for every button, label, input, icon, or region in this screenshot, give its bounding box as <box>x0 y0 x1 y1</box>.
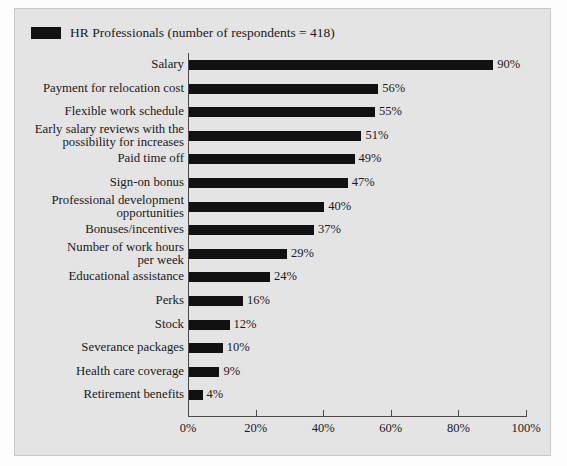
bar <box>189 249 287 259</box>
bar-row: Perks16% <box>188 289 526 313</box>
bar-row: Paid time off49% <box>188 147 526 171</box>
chart-panel: HR Professionals (number of respondents … <box>14 8 551 456</box>
bar <box>189 390 203 400</box>
bar <box>189 343 223 353</box>
bar-row: Severance packages10% <box>188 336 526 360</box>
bar-row: Stock12% <box>188 313 526 337</box>
bar <box>189 367 219 377</box>
category-label: Bonuses/incentives <box>24 223 184 237</box>
category-label-line: possibility for increases <box>24 136 184 150</box>
bar-row: Flexible work schedule55% <box>188 100 526 124</box>
bar-value-label: 49% <box>359 151 382 166</box>
bar-value-label: 24% <box>274 269 297 284</box>
x-axis-tick-label: 100% <box>511 421 540 436</box>
x-axis-tick <box>323 410 324 416</box>
category-label: Professional developmentopportunities <box>24 194 184 221</box>
bar <box>189 84 378 94</box>
category-label: Sign-on bonus <box>24 176 184 190</box>
category-label: Health care coverage <box>24 365 184 379</box>
x-axis-tick <box>391 410 392 416</box>
bar-row: Salary90% <box>188 53 526 77</box>
x-axis-tick-label: 80% <box>447 421 470 436</box>
x-axis-tick-label: 20% <box>244 421 267 436</box>
bar-row: Bonuses/incentives37% <box>188 218 526 242</box>
bar-row: Retirement benefits4% <box>188 383 526 407</box>
bar-row: Sign-on bonus47% <box>188 171 526 195</box>
category-label: Paid time off <box>24 152 184 166</box>
legend-label: HR Professionals (number of respondents … <box>70 26 335 40</box>
bar <box>189 320 230 330</box>
bar <box>189 225 314 235</box>
category-label: Number of work hoursper week <box>24 241 184 268</box>
bar <box>189 202 324 212</box>
bar-value-label: 12% <box>234 317 257 332</box>
x-axis-line <box>188 416 527 417</box>
category-label-line: Professional development <box>24 194 184 208</box>
bar <box>189 60 493 70</box>
x-axis-tick-label: 40% <box>312 421 335 436</box>
category-label: Payment for relocation cost <box>24 82 184 96</box>
category-label: Salary <box>24 58 184 72</box>
bar <box>189 296 243 306</box>
bar <box>189 178 348 188</box>
chart-legend: HR Professionals (number of respondents … <box>31 26 335 40</box>
bar-value-label: 16% <box>247 293 270 308</box>
bar-value-label: 40% <box>328 199 351 214</box>
bar <box>189 107 375 117</box>
bar-row: Health care coverage9% <box>188 360 526 384</box>
category-label: Flexible work schedule <box>24 105 184 119</box>
bar-value-label: 51% <box>365 128 388 143</box>
x-axis-tick <box>188 410 189 416</box>
bar <box>189 131 361 141</box>
category-label: Educational assistance <box>24 270 184 284</box>
bar-value-label: 10% <box>227 340 250 355</box>
category-label: Retirement benefits <box>24 388 184 402</box>
bar-value-label: 47% <box>352 175 375 190</box>
bar-row: Early salary reviews with thepossibility… <box>188 124 526 148</box>
category-label-line: Early salary reviews with the <box>24 123 184 137</box>
plot-area: 0%20%40%60%80%100% Salary90%Payment for … <box>188 53 526 416</box>
bar-row: Payment for relocation cost56% <box>188 77 526 101</box>
bar-row: Professional developmentopportunities40% <box>188 195 526 219</box>
bar <box>189 154 355 164</box>
bar-value-label: 56% <box>382 81 405 96</box>
category-label: Perks <box>24 294 184 308</box>
x-axis-tick <box>256 410 257 416</box>
category-label: Early salary reviews with thepossibility… <box>24 123 184 150</box>
legend-swatch-icon <box>31 27 61 39</box>
x-axis-tick <box>458 410 459 416</box>
bar-row: Number of work hoursper week29% <box>188 242 526 266</box>
x-axis-tick-label: 60% <box>379 421 402 436</box>
bar-value-label: 90% <box>497 57 520 72</box>
bar-value-label: 4% <box>207 387 224 402</box>
x-axis-tick <box>526 410 527 416</box>
category-label-line: Number of work hours <box>24 241 184 255</box>
bar <box>189 272 270 282</box>
bar-value-label: 29% <box>291 246 314 261</box>
bar-row: Educational assistance24% <box>188 265 526 289</box>
bar-value-label: 9% <box>223 364 240 379</box>
category-label: Severance packages <box>24 341 184 355</box>
x-axis-tick-label: 0% <box>180 421 197 436</box>
bar-value-label: 55% <box>379 104 402 119</box>
category-label: Stock <box>24 318 184 332</box>
category-label-line: per week <box>24 254 184 268</box>
bar-value-label: 37% <box>318 222 341 237</box>
chart-figure: HR Professionals (number of respondents … <box>0 0 567 466</box>
category-label-line: opportunities <box>24 207 184 221</box>
